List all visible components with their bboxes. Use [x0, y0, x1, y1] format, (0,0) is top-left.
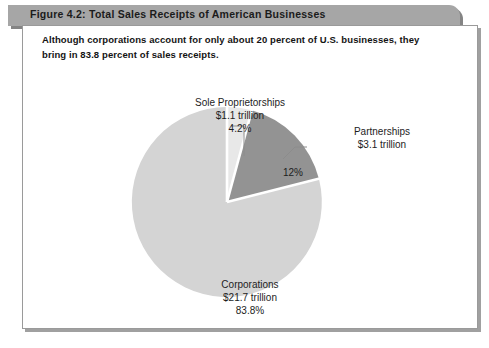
figure-container: Figure 4.2: Total Sales Receipts of Amer…	[0, 0, 489, 348]
page-title: Figure 4.2: Total Sales Receipts of Amer…	[30, 8, 326, 20]
pie-chart: Sole Proprietorships $1.1 trillion 4.2% …	[22, 25, 478, 329]
label-corporations-name: Corporations	[185, 278, 315, 291]
label-partnerships-name: Partnerships	[327, 125, 437, 138]
label-corporations-value: $21.7 trillion	[185, 291, 315, 304]
label-partnerships: Partnerships $3.1 trillion	[327, 125, 437, 151]
label-sole-proprietorships: Sole Proprietorships $1.1 trillion 4.2%	[172, 96, 308, 135]
figure-header-tab: Figure 4.2: Total Sales Receipts of Amer…	[8, 5, 460, 26]
label-sole-percent: 4.2%	[172, 122, 308, 135]
label-corporations-percent: 83.8%	[185, 304, 315, 317]
label-sole-value: $1.1 trillion	[172, 109, 308, 122]
label-sole-name: Sole Proprietorships	[172, 96, 308, 109]
label-corporations: Corporations $21.7 trillion 83.8%	[185, 278, 315, 317]
label-partnerships-value: $3.1 trillion	[327, 138, 437, 151]
label-partnerships-percent: 12%	[270, 167, 316, 178]
